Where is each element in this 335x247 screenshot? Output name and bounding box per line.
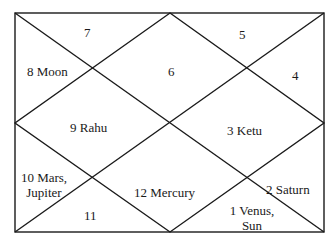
house-10-label: 10 Mars, Jupiter: [16, 170, 72, 200]
house-2-label: 2 Saturn: [266, 182, 310, 197]
house-4-label: 4: [292, 68, 299, 83]
house-7-label: 7: [84, 25, 91, 40]
house-10-line2: Jupiter: [16, 185, 72, 200]
house-1-line2: Sun: [217, 218, 287, 233]
house-12-label: 12 Mercury: [134, 185, 195, 200]
house-3-label: 3 Ketu: [227, 123, 262, 138]
house-8-label: 8 Moon: [27, 64, 68, 79]
house-5-label: 5: [239, 27, 246, 42]
house-9-label: 9 Rahu: [70, 120, 107, 135]
horoscope-chart: 7 5 8 Moon 6 4 9 Rahu 3 Ketu 10 Mars, Ju…: [0, 0, 335, 247]
house-1-label: 1 Venus, Sun: [217, 203, 287, 233]
house-6-label: 6: [168, 64, 175, 79]
house-10-line1: 10 Mars,: [16, 170, 72, 185]
house-11-label: 11: [84, 208, 97, 223]
house-1-line1: 1 Venus,: [217, 203, 287, 218]
